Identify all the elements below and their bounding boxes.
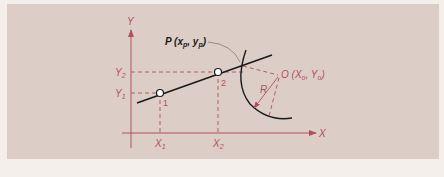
x-axis-label: X xyxy=(318,128,326,139)
point-1 xyxy=(157,90,164,97)
diagram-canvas: Y X R 1 2 Y2 Y1 X1 X2 P (xp, yp) O (Xo, … xyxy=(0,0,444,177)
point-2 xyxy=(215,69,222,76)
x2-label: X2 xyxy=(212,138,224,150)
point-2-label: 2 xyxy=(221,78,226,88)
center-label: O (Xo, Yo) xyxy=(281,69,325,81)
leader-line xyxy=(208,42,240,62)
y2-label: Y2 xyxy=(115,67,126,79)
point-1-label: 1 xyxy=(163,98,168,108)
y1-label: Y1 xyxy=(115,88,126,100)
x1-label: X1 xyxy=(154,138,166,150)
radius-label: R xyxy=(260,84,267,95)
y-axis-label: Y xyxy=(127,16,135,27)
intersection-label: P (xp, yp) xyxy=(165,36,207,49)
dashed-guides xyxy=(131,66,279,133)
